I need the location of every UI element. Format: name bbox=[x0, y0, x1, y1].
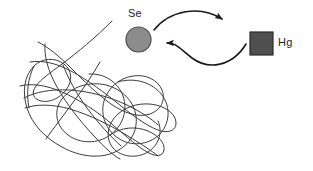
tangle-strand-7 bbox=[24, 90, 158, 125]
arrow-hg-to-se bbox=[167, 43, 246, 65]
tangle-strand-6 bbox=[25, 105, 158, 156]
figure-canvas: Se Hg bbox=[0, 0, 313, 171]
tangle-strand-1 bbox=[24, 21, 136, 156]
polymer-tangle bbox=[20, 21, 176, 159]
selenium-label: Se bbox=[128, 8, 142, 19]
mercury-particle bbox=[250, 32, 273, 55]
diagram-svg bbox=[0, 0, 313, 171]
mercury-label: Hg bbox=[278, 37, 292, 48]
selenium-particle bbox=[126, 27, 151, 52]
arrow-se-to-hg bbox=[154, 11, 222, 30]
